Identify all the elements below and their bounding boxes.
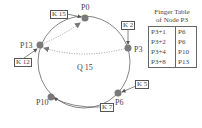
k15-arrow	[67, 14, 81, 17]
node-label-p10: P10	[36, 99, 48, 107]
node-p3	[125, 45, 132, 52]
finger-row: P3+1P6	[149, 27, 197, 38]
node-p0	[82, 15, 89, 22]
finger-table: P3+1P6 P3+2P6 P3+4P10 P3+8P13	[148, 26, 197, 68]
node-label-p6: P6	[115, 99, 123, 107]
node-p6	[115, 90, 122, 97]
k5-arrow	[122, 86, 136, 92]
key-box-k5: K 5	[135, 80, 149, 89]
key-box-k15: K 15	[50, 10, 68, 19]
k7-arrow	[54, 98, 100, 107]
finger-row: P3+8P13	[149, 57, 197, 68]
node-p13	[37, 42, 44, 49]
finger-table-title: Finger Table of Node P3	[146, 8, 198, 24]
node-label-p3: P3	[134, 46, 142, 54]
key-box-k12: K 12	[14, 58, 32, 67]
query-arrow-p3-to-p13	[44, 48, 127, 54]
finger-row: P3+2P6	[149, 37, 197, 47]
node-label-p0: P0	[81, 4, 89, 12]
k12-arrow	[24, 49, 37, 58]
node-p10	[48, 94, 55, 101]
key-box-k7: K 7	[100, 103, 114, 112]
finger-row: P3+4P10	[149, 47, 197, 57]
node-label-p13: P13	[20, 42, 32, 50]
query-label: Q 15	[77, 64, 93, 72]
key-box-k2: K 2	[121, 21, 135, 30]
